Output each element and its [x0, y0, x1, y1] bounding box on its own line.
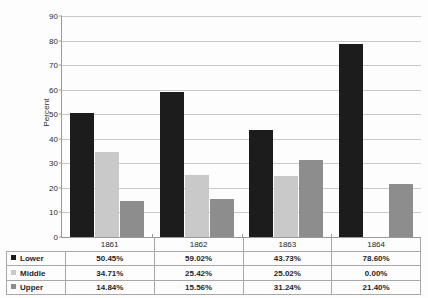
bar-group-1862 [160, 16, 234, 237]
bar-upper-1863 [299, 160, 323, 237]
bar-middle-1863 [274, 176, 298, 237]
cell-middle-1862: 25.42% [154, 266, 243, 280]
bar-middle-1861 [95, 152, 119, 237]
legend-item-middle: Middle [7, 266, 66, 280]
table-header-row: 1861186218631864 [7, 238, 421, 252]
y-tick-mark-10 [59, 212, 62, 213]
bar-upper-1864 [389, 184, 413, 237]
y-tick-label-20: 20 [49, 183, 58, 192]
table-row: Lower50.45%59.02%43.73%78.60% [7, 252, 421, 266]
column-header-1861: 1861 [66, 238, 155, 252]
legend-swatch-icon-lower [11, 255, 16, 260]
legend-label: Middle [20, 267, 45, 280]
cell-lower-1861: 50.45% [66, 252, 155, 266]
cell-upper-1861: 14.84% [66, 280, 155, 294]
bar-upper-1862 [210, 199, 234, 237]
column-header-1863: 1863 [243, 238, 332, 252]
data-table: 1861186218631864Lower50.45%59.02%43.73%7… [6, 238, 421, 295]
cell-middle-1861: 34.71% [66, 266, 155, 280]
bar-lower-1863 [249, 130, 273, 237]
y-tick-mark-80 [59, 40, 62, 41]
y-tick-mark-30 [59, 163, 62, 164]
column-header-1862: 1862 [154, 238, 243, 252]
bar-middle-1862 [185, 175, 209, 237]
bar-group-1861 [70, 16, 144, 237]
y-tick-label-70: 70 [49, 61, 58, 70]
plot-area: 0102030405060708090 [61, 16, 421, 238]
cell-lower-1864: 78.60% [332, 252, 421, 266]
legend-label: Upper [20, 281, 43, 294]
table-row: Middle34.71%25.42%25.02%0.00% [7, 266, 421, 280]
y-tick-label-30: 30 [49, 159, 58, 168]
y-tick-mark-70 [59, 65, 62, 66]
y-tick-mark-50 [59, 114, 62, 115]
table-corner-cell [7, 238, 66, 252]
table-row: Upper14.84%15.56%31.24%21.40% [7, 280, 421, 294]
legend-swatch-icon-middle [11, 270, 16, 275]
bar-upper-1861 [120, 201, 144, 237]
bar-group-1864 [339, 16, 413, 237]
bar-lower-1862 [160, 92, 184, 237]
y-tick-mark-20 [59, 187, 62, 188]
bar-chart-with-data-table: Percent 0102030405060708090 186118621863… [0, 0, 428, 298]
y-tick-mark-60 [59, 89, 62, 90]
y-tick-mark-90 [59, 16, 62, 17]
cell-upper-1863: 31.24% [243, 280, 332, 294]
bar-lower-1864 [339, 44, 363, 237]
bar-group-1863 [249, 16, 323, 237]
cell-middle-1863: 25.02% [243, 266, 332, 280]
y-tick-label-40: 40 [49, 134, 58, 143]
bar-lower-1861 [70, 113, 94, 237]
cell-upper-1864: 21.40% [332, 280, 421, 294]
legend-swatch-icon-upper [11, 284, 16, 289]
y-tick-label-80: 80 [49, 36, 58, 45]
legend-label: Lower [20, 252, 44, 265]
y-tick-label-50: 50 [49, 110, 58, 119]
cell-upper-1862: 15.56% [154, 280, 243, 294]
y-tick-mark-40 [59, 138, 62, 139]
y-tick-label-10: 10 [49, 208, 58, 217]
cell-lower-1863: 43.73% [243, 252, 332, 266]
y-tick-label-90: 90 [49, 12, 58, 21]
legend-item-lower: Lower [7, 252, 66, 266]
data-table-body: 1861186218631864Lower50.45%59.02%43.73%7… [7, 238, 421, 295]
legend-item-upper: Upper [7, 280, 66, 294]
column-header-1864: 1864 [332, 238, 421, 252]
cell-lower-1862: 59.02% [154, 252, 243, 266]
cell-middle-1864: 0.00% [332, 266, 421, 280]
y-tick-label-60: 60 [49, 85, 58, 94]
